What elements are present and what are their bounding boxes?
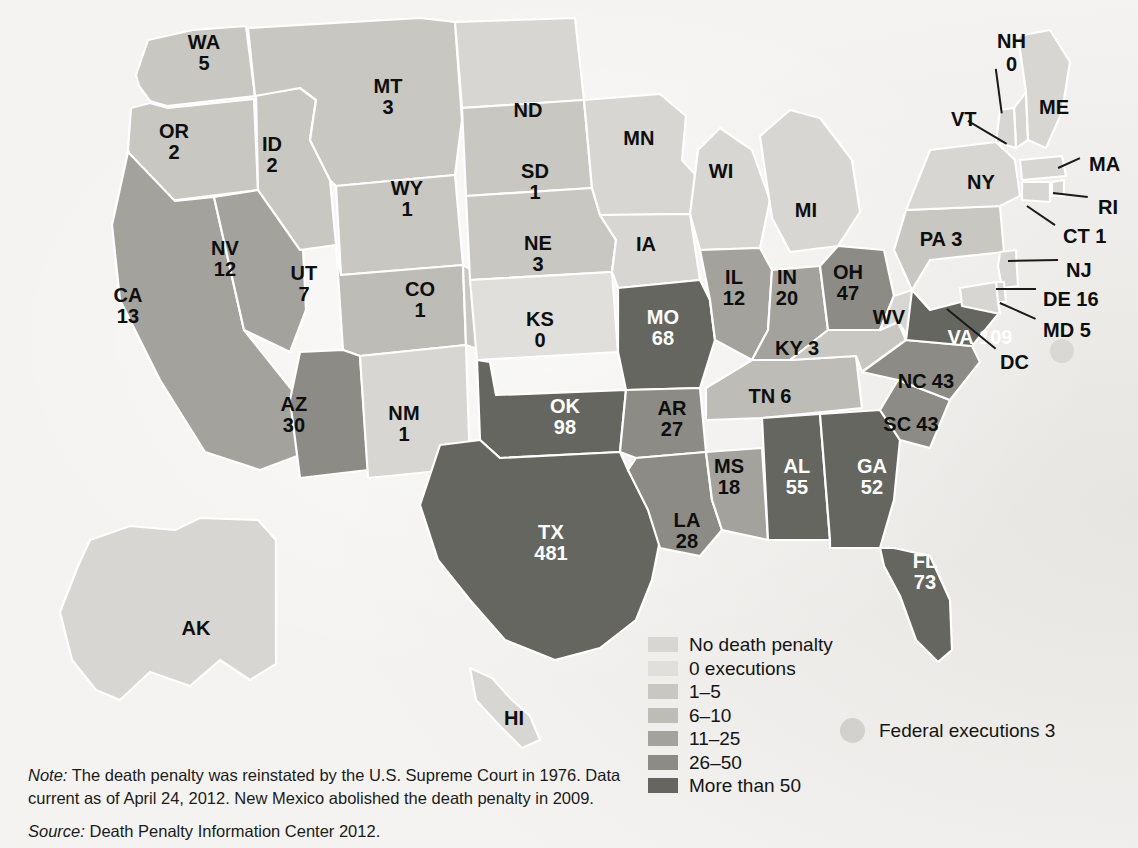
legend-row-0-exec: 0 executions — [648, 657, 833, 681]
legend-label: No death penalty — [689, 635, 833, 654]
state-shape-fl — [880, 548, 952, 662]
legend-label: 6–10 — [689, 706, 731, 725]
source-line: Source: Death Penalty Information Center… — [28, 820, 628, 843]
legend-swatch — [648, 684, 678, 699]
legend-row-more-50: More than 50 — [648, 774, 833, 798]
legend-row-1-5: 1–5 — [648, 680, 833, 704]
state-shape-ia — [600, 214, 700, 288]
state-shape-al — [762, 414, 830, 540]
state-shape-ak — [60, 518, 276, 700]
legend-label: 1–5 — [689, 682, 721, 701]
legend-row-6-10: 6–10 — [648, 704, 833, 728]
state-shape-ri — [1052, 180, 1064, 196]
legend-label: More than 50 — [689, 776, 801, 795]
state-shape-nd — [455, 18, 584, 108]
legend-label: 11–25 — [689, 729, 740, 748]
legend-row-26-50: 26–50 — [648, 751, 833, 775]
dc-marker-dot — [1050, 339, 1074, 363]
state-shape-ks — [470, 272, 618, 360]
note-line: Note: The death penalty was reinstated b… — [28, 764, 628, 810]
state-shape-ny — [906, 142, 1020, 210]
state-shape-ma — [1020, 156, 1066, 180]
legend-swatch — [648, 755, 678, 770]
state-shape-ga — [820, 410, 900, 548]
source-text: Death Penalty Information Center 2012. — [85, 822, 380, 840]
federal-executions-legend: Federal executions 3 — [840, 718, 1055, 743]
note-lead: Note: — [28, 766, 67, 784]
state-shape-ct — [1022, 182, 1050, 202]
state-shape-wy — [336, 175, 463, 275]
legend-swatch — [648, 731, 678, 746]
state-shape-pa — [894, 206, 1004, 290]
state-shape-tn — [706, 356, 862, 420]
state-shape-oh — [820, 246, 894, 330]
state-shape-vt — [996, 108, 1016, 148]
state-shape-ar — [620, 388, 706, 458]
federal-legend-label: Federal executions 3 — [879, 720, 1055, 742]
note-text: The death penalty was reinstated by the … — [28, 766, 620, 807]
legend-label: 0 executions — [689, 659, 796, 678]
federal-marker-dot — [840, 718, 865, 743]
legend-swatch — [648, 778, 678, 793]
source-lead: Source: — [28, 822, 85, 840]
state-shape-tx — [420, 440, 660, 660]
state-shape-az — [290, 350, 368, 478]
state-shape-wi — [690, 128, 770, 250]
map-legend: No death penalty0 executions1–56–1011–25… — [648, 633, 833, 798]
state-shape-wa — [136, 26, 255, 106]
state-shape-ne — [466, 188, 616, 280]
state-shape-mo — [618, 280, 715, 390]
state-shape-mi — [760, 110, 860, 252]
state-shape-mn — [584, 94, 700, 215]
figure-notes: Note: The death penalty was reinstated b… — [28, 764, 628, 842]
legend-label: 26–50 — [689, 753, 742, 772]
legend-swatch — [648, 661, 678, 676]
legend-row-11-25: 11–25 — [648, 727, 833, 751]
state-shape-hi — [470, 668, 540, 748]
legend-row-no-penalty: No death penalty — [648, 633, 833, 657]
state-shape-ok — [477, 360, 626, 458]
state-shape-sd — [462, 100, 592, 196]
us-execution-map-figure: WA5OR2CA13NV12ID2MT3WY1UT7AZ30CO1NM1NDSD… — [0, 0, 1138, 848]
legend-swatch — [648, 708, 678, 723]
legend-swatch — [648, 637, 678, 652]
